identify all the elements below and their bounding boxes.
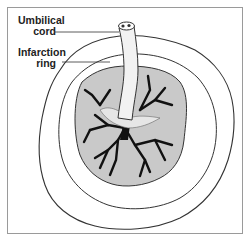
- infarction-ring-label: Infarction ring: [18, 47, 64, 69]
- cord-cut-end: [119, 22, 135, 30]
- umbilical-cord-label: Umbilical cord: [18, 15, 64, 37]
- label-line: ring: [18, 58, 64, 69]
- label-line: cord: [18, 26, 64, 37]
